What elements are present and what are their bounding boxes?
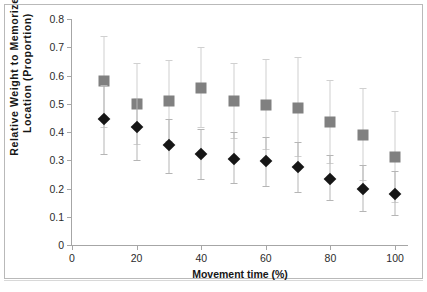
error-bar-cap-bottom [392, 215, 399, 216]
error-bar-cap-bottom [165, 173, 172, 174]
error-bar-cap-bottom [230, 183, 237, 184]
data-point-diamond [98, 112, 111, 125]
y-tick-label: 0.7 [49, 41, 64, 53]
error-bar-cap-top [133, 98, 140, 99]
error-bar-cap-top [165, 119, 172, 120]
error-bar-cap-top [295, 142, 302, 143]
error-bar-cap-bottom [359, 211, 366, 212]
error-bar-cap-top [359, 165, 366, 166]
x-tick-label: 80 [325, 252, 337, 264]
data-point-diamond [324, 172, 337, 185]
series-black-diamond-series [72, 19, 408, 245]
data-point-diamond [227, 152, 240, 165]
error-bar-cap-bottom [198, 179, 205, 180]
data-point-diamond [356, 183, 369, 196]
x-tick-mark [201, 245, 202, 250]
data-point-diamond [130, 121, 143, 134]
error-bar-cap-bottom [133, 160, 140, 161]
error-bar-cap-bottom [327, 200, 334, 201]
error-bar-cap-top [327, 155, 334, 156]
y-tick-label: 0.2 [49, 183, 64, 195]
x-tick-mark [72, 245, 73, 250]
x-tick-label: 40 [195, 252, 207, 264]
data-point-diamond [259, 155, 272, 168]
x-tick-label: 0 [69, 252, 75, 264]
x-tick-label: 20 [131, 252, 143, 264]
data-point-diamond [389, 188, 402, 201]
x-axis-title: Movement time (%) [72, 268, 408, 280]
error-bar-cap-top [262, 137, 269, 138]
error-bar-cap-top [101, 85, 108, 86]
y-axis-title: Relative Weight to Memorized Location (P… [8, 0, 34, 178]
x-tick-mark [395, 245, 396, 250]
data-point-diamond [195, 147, 208, 160]
data-point-diamond [292, 161, 305, 174]
figure-border-shadow [4, 280, 423, 281]
error-bar-cap-bottom [262, 186, 269, 187]
y-tick-label: 0.5 [49, 98, 64, 110]
y-tick-label: 0.8 [49, 13, 64, 25]
data-point-diamond [163, 139, 176, 152]
error-bar-cap-top [230, 132, 237, 133]
error-bar-cap-bottom [295, 192, 302, 193]
x-tick-label: 100 [386, 252, 404, 264]
x-tick-mark [330, 245, 331, 250]
y-tick-label: 0.6 [49, 70, 64, 82]
y-tick-label: 0.1 [49, 211, 64, 223]
x-axis-line [71, 245, 408, 246]
x-tick-mark [266, 245, 267, 250]
plot-area: 00.10.20.30.40.50.60.70.8 020406080100 [72, 19, 408, 245]
error-bar-cap-bottom [101, 154, 108, 155]
y-tick-label: 0.3 [49, 154, 64, 166]
x-tick-label: 60 [260, 252, 272, 264]
error-bar-cap-top [392, 171, 399, 172]
x-tick-mark [137, 245, 138, 250]
y-tick-label: 0 [58, 239, 64, 251]
figure-container: 00.10.20.30.40.50.60.70.8 020406080100 M… [0, 0, 427, 292]
y-tick-label: 0.4 [49, 126, 64, 138]
error-bar-cap-top [198, 129, 205, 130]
